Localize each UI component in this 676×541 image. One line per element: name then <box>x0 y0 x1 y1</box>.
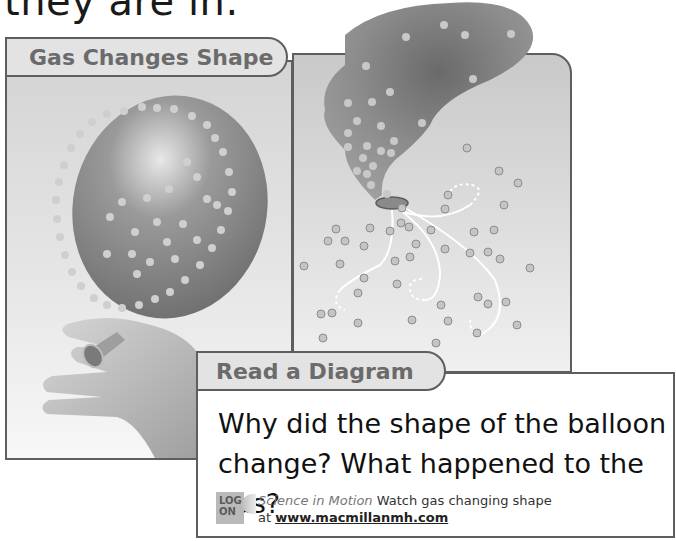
diagram-title: Gas Changes Shape <box>29 45 273 70</box>
series-name: Science in Motion <box>258 493 373 508</box>
question-line-1: Why did the shape of the balloon <box>218 404 673 444</box>
logon-text: Science in Motion Watch gas changing sha… <box>258 492 552 526</box>
read-a-diagram-tab: Read a Diagram <box>196 351 446 391</box>
logon-icon: LOG ON <box>216 492 244 524</box>
logon-at: at <box>258 510 275 525</box>
logon-callout: LOG ON Science in Motion Watch gas chang… <box>216 492 552 526</box>
logon-description: Watch gas changing shape <box>373 493 552 508</box>
swoosh-icon <box>242 494 256 514</box>
read-a-diagram-box: Why did the shape of the balloon change?… <box>196 372 675 538</box>
logon-badge-line2: ON <box>219 506 244 517</box>
website-link[interactable]: www.macmillanmh.com <box>275 510 448 525</box>
read-a-diagram-title: Read a Diagram <box>216 359 414 384</box>
diagram-title-tab: Gas Changes Shape <box>5 37 288 77</box>
logon-badge-line1: LOG <box>219 495 244 506</box>
